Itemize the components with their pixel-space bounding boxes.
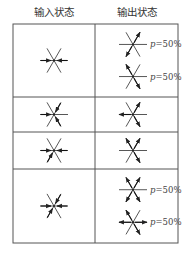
particle-arrow-se-out bbox=[134, 116, 140, 126]
particle-arrow-se-out bbox=[134, 224, 140, 234]
particle-arrow-nw-out bbox=[126, 64, 132, 74]
particle-arrow-nw-out bbox=[126, 210, 132, 220]
particle-arrow-nw-out bbox=[126, 178, 132, 188]
input-state-1 bbox=[40, 48, 68, 72]
particle-arrow-sw-in bbox=[47, 153, 52, 162]
output-state-4-2: p=50% bbox=[119, 210, 181, 234]
node-dot bbox=[132, 221, 134, 223]
particle-arrow-ne-out bbox=[134, 102, 140, 112]
node-dot bbox=[53, 150, 55, 152]
particle-arrow-se-in bbox=[56, 117, 61, 126]
node-dot bbox=[132, 43, 134, 45]
output-state-3-1 bbox=[119, 138, 147, 162]
output-state-2-1 bbox=[119, 102, 147, 126]
particle-arrow-se-out bbox=[134, 152, 140, 162]
particle-arrow-nw-out bbox=[126, 138, 132, 148]
node-dot bbox=[53, 114, 55, 116]
particle-arrow-ne-in bbox=[56, 194, 61, 203]
probability-label: p=50% bbox=[150, 72, 181, 82]
particle-arrow-se-out bbox=[134, 191, 140, 201]
node-dot bbox=[53, 60, 55, 62]
node-dot bbox=[132, 189, 134, 191]
output-state-1-2: p=50% bbox=[119, 64, 181, 88]
node-dot bbox=[132, 76, 134, 78]
output-state-1-1: p=50% bbox=[119, 32, 181, 56]
particle-arrow-sw-in bbox=[47, 209, 52, 218]
particle-arrow-ne-out bbox=[134, 138, 140, 148]
input-state-2 bbox=[40, 102, 68, 126]
probability-label: p=50% bbox=[150, 217, 181, 227]
input-state-4 bbox=[40, 194, 68, 218]
particle-arrow-se-out bbox=[134, 78, 140, 88]
particle-arrow-ne-out bbox=[134, 178, 140, 188]
node-dot bbox=[132, 114, 134, 116]
probability-label: p=50% bbox=[150, 39, 181, 49]
probability-label: p=50% bbox=[150, 185, 181, 195]
node-dot bbox=[53, 205, 55, 207]
particle-arrow-sw-out bbox=[126, 191, 132, 201]
node-dot bbox=[132, 150, 134, 152]
input-state-3 bbox=[40, 138, 68, 162]
output-state-4-1: p=50% bbox=[119, 178, 181, 202]
particle-arrow-ne-out bbox=[134, 32, 140, 42]
particle-arrow-sw-out bbox=[126, 46, 132, 56]
table-grid bbox=[13, 24, 178, 243]
particle-arrow-ne-in bbox=[56, 103, 61, 112]
collision-rules-table: p=50%p=50%p=50%p=50% bbox=[0, 0, 191, 253]
